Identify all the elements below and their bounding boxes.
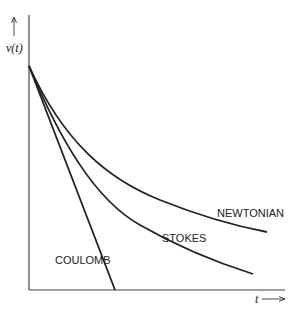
y-axis-arrow-icon (12, 17, 17, 36)
x-axis-arrow-icon (262, 297, 285, 302)
stokes-label: STOKES (162, 232, 206, 244)
stokes-curve (29, 66, 253, 274)
y-axis-label: v(t) (6, 41, 23, 55)
coulomb-label: COULOMB (55, 254, 111, 266)
velocity-decay-diagram: v(t) t COULOMB STOKES NEWTONIAN (0, 0, 303, 310)
newtonian-label: NEWTONIAN (217, 207, 284, 219)
x-axis-label: t (255, 292, 259, 306)
